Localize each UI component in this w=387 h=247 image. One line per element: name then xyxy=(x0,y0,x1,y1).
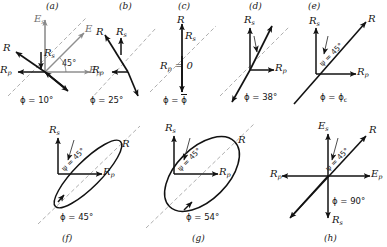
phi-label-c: ϕ = ϕ xyxy=(163,95,187,105)
panel-b-label: (b) xyxy=(119,1,132,11)
label-Rp-zero: Rp = 0 xyxy=(160,60,193,71)
label-R: R xyxy=(368,13,376,24)
label-Rs: Rs xyxy=(165,122,176,133)
label-Es: Es xyxy=(34,13,45,24)
label-R: R xyxy=(369,124,377,135)
panel-h-label: (h) xyxy=(324,233,337,243)
label-R: R xyxy=(238,134,246,145)
panel-e: (e) Rs R Rp ψ = 45° ϕ = ϕc xyxy=(294,0,387,112)
polarization-vector-figure: (a) Es E Ep R Rs Rp 45° ϕ = 10° (b) R Rs… xyxy=(0,0,387,247)
label-Rs: Rs xyxy=(49,124,60,135)
phi-label-e: ϕ = ϕc xyxy=(320,92,347,102)
ellipse-direction-arrow xyxy=(58,195,64,202)
panel-d-label: (d) xyxy=(249,1,262,11)
panel-h-diagram xyxy=(270,116,387,247)
panel-h: Es R Ep Rp Rs ψ = 45° ϕ = 90° (h) xyxy=(270,116,387,247)
label-Rs: Rs xyxy=(44,47,55,58)
label-Rp: Rp xyxy=(357,66,369,77)
label-Rs: Rs xyxy=(116,26,127,37)
reference-line-45 xyxy=(150,26,216,92)
phi-bar: ϕ xyxy=(181,94,187,105)
label-Rp: Rp xyxy=(0,64,12,75)
label-Rs: Rs xyxy=(309,15,320,26)
angle-45-label: 45° xyxy=(62,59,76,68)
label-R: R xyxy=(96,26,104,37)
panel-d: (d) Rs Rp ϕ = 38° xyxy=(218,0,296,112)
panel-g: Rs R Rp ψ = 45° ϕ = 54° (g) xyxy=(142,116,274,247)
phi-label-h: ϕ = 90° xyxy=(332,196,365,206)
label-Rs: Rs xyxy=(332,214,343,225)
vector-R xyxy=(105,35,128,72)
psi-angle-marker xyxy=(254,36,257,52)
phi-label-a: ϕ = 10° xyxy=(20,95,53,105)
panel-g-diagram xyxy=(142,116,274,247)
label-Rp: Rp xyxy=(219,166,231,177)
vector-R xyxy=(250,26,272,70)
label-R: R xyxy=(177,14,185,25)
panel-e-label: (e) xyxy=(308,1,320,11)
label-Rp: Rp xyxy=(270,168,282,179)
ellipse-direction-arrow xyxy=(184,202,192,210)
label-R: R xyxy=(122,138,130,149)
label-Ep: Ep xyxy=(371,168,382,179)
vector-R-opposite xyxy=(128,72,138,96)
panel-f-diagram xyxy=(30,116,158,247)
vector-R-opposite xyxy=(290,176,328,218)
panel-a-label: (a) xyxy=(46,1,58,11)
label-Es: Es xyxy=(318,120,329,131)
label-Rp: Rp xyxy=(103,166,115,177)
panel-g-label: (g) xyxy=(192,233,205,243)
vector-R-opposite xyxy=(45,72,68,91)
phi-subscript-c: c xyxy=(344,96,347,103)
panel-c: (c) R Rs Rp = 0 ϕ = ϕ xyxy=(150,0,222,112)
phi-label-d: ϕ = 38° xyxy=(244,92,277,102)
panel-f-label: (f) xyxy=(62,233,72,243)
panel-c-label: (c) xyxy=(178,1,190,11)
phi-label-b: ϕ = 25° xyxy=(90,95,123,105)
phi-prefix: ϕ = xyxy=(163,95,181,105)
panel-a: (a) Es E Ep R Rs Rp 45° ϕ = 10° xyxy=(0,0,100,112)
phi-label-g: ϕ = 54° xyxy=(186,212,219,222)
label-Rs: Rs xyxy=(244,14,255,25)
label-Rp: Rp xyxy=(275,62,287,73)
phi-label-f: ϕ = 45° xyxy=(60,212,93,222)
panel-f: Rs R Rp ψ = 45° ϕ = 45° (f) xyxy=(30,116,158,247)
label-Rs: Rs xyxy=(185,30,196,41)
label-R: R xyxy=(3,42,11,53)
label-Rp: Rp xyxy=(92,64,104,75)
